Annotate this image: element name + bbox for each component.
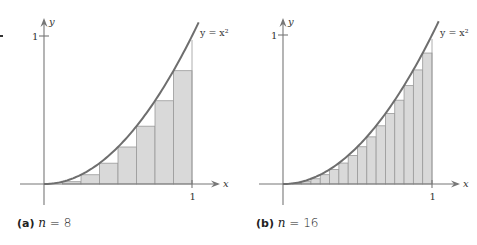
riemann-rectangle	[330, 169, 339, 184]
caption-a: (a) n = 8	[17, 216, 71, 230]
caption-a-value: = 8	[46, 216, 71, 230]
riemann-rectangle	[155, 101, 174, 184]
stray-mark	[0, 35, 3, 37]
riemann-rectangle	[137, 126, 156, 184]
riemann-rectangle	[376, 126, 385, 184]
x-axis-label: x	[223, 178, 229, 189]
panel-a-plot: 11xyy = x²	[20, 16, 229, 205]
caption-b-tag: (b)	[256, 217, 274, 230]
y-axis-label: y	[48, 16, 55, 27]
x-tick-label: 1	[430, 191, 436, 202]
riemann-rectangle	[320, 175, 329, 184]
curve-label: y = x²	[199, 27, 229, 38]
riemann-rectangle	[367, 137, 376, 184]
figure-canvas: 11xyy = x² 11xyy = x²	[0, 0, 477, 245]
riemann-rectangles	[63, 71, 193, 184]
curve-label: y = x²	[439, 27, 469, 38]
y-tick-label: 1	[32, 31, 38, 42]
riemann-rectangle	[395, 100, 404, 184]
y-axis-label: y	[287, 16, 294, 27]
riemann-rectangle	[118, 147, 137, 184]
riemann-rectangle	[358, 147, 367, 184]
caption-a-var: n	[38, 216, 46, 230]
caption-a-tag: (a)	[17, 217, 34, 230]
x-axis-label: x	[463, 178, 469, 189]
caption-b-var: n	[278, 216, 286, 230]
panel-b-plot: 11xyy = x²	[259, 16, 469, 205]
riemann-rectangle	[311, 179, 320, 184]
x-tick-label: 1	[190, 191, 196, 202]
riemann-rectangle	[174, 71, 193, 184]
riemann-rectangle	[339, 163, 348, 184]
riemann-rectangle	[385, 114, 394, 184]
riemann-rectangle	[100, 163, 119, 184]
riemann-rectangle	[413, 70, 422, 184]
riemann-rectangle	[423, 53, 432, 184]
riemann-rectangle	[81, 175, 100, 184]
riemann-rectangle	[348, 155, 357, 184]
riemann-rectangle	[404, 86, 413, 184]
caption-b: (b) n = 16	[256, 216, 318, 230]
caption-b-value: = 16	[286, 216, 319, 230]
y-tick-label: 1	[271, 30, 277, 41]
